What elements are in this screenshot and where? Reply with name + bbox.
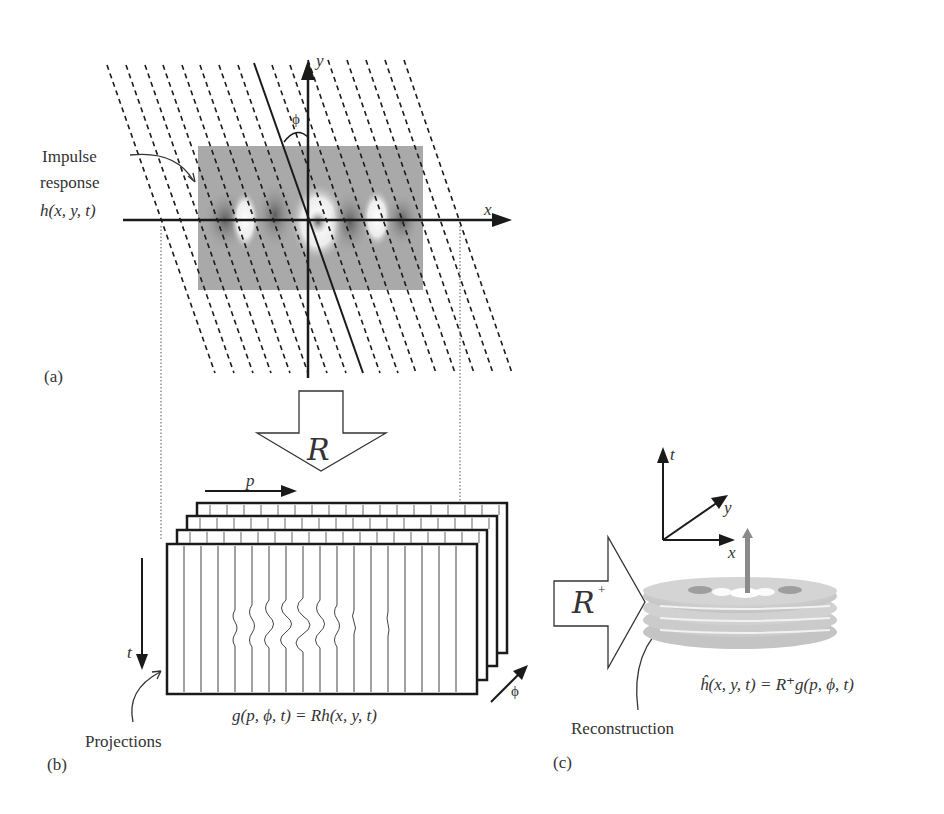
inverse-radon-superscript: + — [598, 583, 605, 596]
p-axis-label: p — [246, 472, 255, 489]
inverse-radon-transform-arrow — [554, 537, 645, 668]
reconstruction-label: Reconstruction — [571, 720, 674, 737]
angle-label: ϕ — [292, 112, 300, 127]
y-axis-label: y — [316, 52, 324, 69]
impulse-function-label: h(x, y, t) — [40, 202, 96, 219]
projection-equation: g(p, ϕ, t) = Rh(x, y, t) — [232, 707, 377, 724]
txy-axes — [657, 447, 735, 546]
t-axis-label: t — [127, 644, 132, 661]
x-axis-label: x — [484, 201, 492, 218]
impulse-label-line2: response — [40, 174, 99, 191]
reconstruction-equation: ĥ(x, y, t) = R⁺g(p, ϕ, t) — [700, 676, 854, 693]
c-t-axis-label: t — [670, 446, 675, 463]
phi-axis — [491, 665, 528, 702]
radon-symbol: R — [307, 435, 330, 465]
phi-axis-label: ϕ — [511, 684, 519, 699]
projections-pointer-arrow — [132, 672, 160, 722]
impulse-response-field — [198, 146, 423, 290]
panel-b-label: (b) — [47, 756, 67, 773]
y-axis-arrow-icon — [301, 60, 315, 80]
projections-label: Projections — [85, 733, 162, 750]
panel-a-label: (a) — [44, 368, 63, 385]
panel-c-label: (c) — [553, 754, 572, 771]
reconstruction-disc — [643, 577, 837, 649]
inverse-radon-symbol: R — [572, 588, 595, 618]
t-axis — [136, 558, 148, 670]
c-x-axis-label: x — [728, 544, 736, 561]
impulse-label-line1: Impulse — [42, 148, 97, 165]
x-axis-arrow-icon — [492, 213, 512, 227]
c-y-axis-label: y — [724, 499, 732, 516]
